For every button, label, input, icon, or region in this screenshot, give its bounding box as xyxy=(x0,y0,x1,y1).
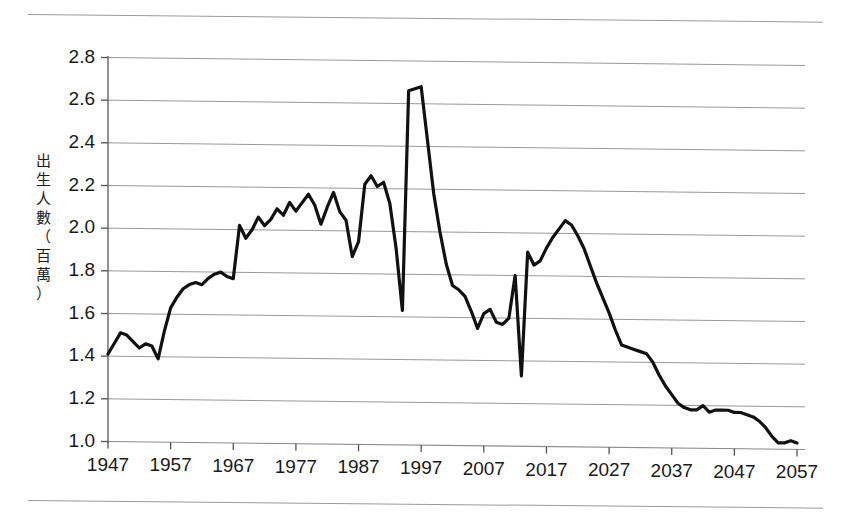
y-axis-ticks xyxy=(101,58,108,442)
gridline xyxy=(108,58,805,66)
y-axis-tick-label: 2.2 xyxy=(49,174,95,196)
gridline xyxy=(108,356,805,364)
data-series-line xyxy=(108,87,797,443)
x-axis-tick-label: 1997 xyxy=(390,457,452,479)
x-axis-tick-label: 2027 xyxy=(578,459,640,481)
y-axis-tick-label: 1.0 xyxy=(49,430,95,452)
x-axis-tick-label: 1947 xyxy=(77,454,139,476)
gridline xyxy=(108,228,805,236)
x-axis-tick-label: 2057 xyxy=(766,461,828,483)
y-axis-tick-label: 2.6 xyxy=(49,88,95,110)
x-axis-tick-label: 2007 xyxy=(453,458,515,480)
x-axis-tick-label: 1957 xyxy=(140,454,202,476)
y-axis-tick-label: 1.8 xyxy=(49,259,95,281)
y-axis-tick-label: 1.4 xyxy=(49,344,95,366)
gridlines xyxy=(108,58,805,450)
x-axis-tick-label: 2047 xyxy=(703,461,765,483)
gridline xyxy=(108,100,805,108)
x-axis-tick-label: 1987 xyxy=(328,456,390,478)
y-axis-tick-label: 2.0 xyxy=(49,216,95,238)
gridline xyxy=(108,143,805,151)
plot-area xyxy=(0,0,851,520)
gridline xyxy=(108,186,805,194)
birth-population-chart: 出 生 人 數 （ 百 萬 ） 1.01.21.41.61.82.02.22.4… xyxy=(0,0,851,520)
x-axis-tick-label: 2037 xyxy=(641,460,703,482)
x-axis-tick-label: 1967 xyxy=(202,455,264,477)
y-axis-tick-label: 1.6 xyxy=(49,302,95,324)
y-axis-tick-label: 2.8 xyxy=(49,46,95,68)
y-axis-tick-label: 1.2 xyxy=(49,387,95,409)
x-axis-tick-label: 2017 xyxy=(515,459,577,481)
gridline xyxy=(108,442,805,450)
x-axis-tick-label: 1977 xyxy=(265,456,327,478)
y-axis-tick-label: 2.4 xyxy=(49,131,95,153)
gridline xyxy=(108,314,805,322)
